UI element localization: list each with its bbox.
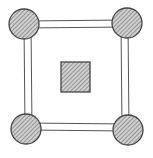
bar-right — [121, 23, 129, 130]
node-bottom-right — [113, 115, 143, 145]
node-top-left — [9, 9, 39, 39]
node-top-right — [112, 8, 142, 38]
center-block — [61, 62, 90, 92]
frame-diagram — [0, 0, 153, 158]
bar-left — [24, 24, 32, 129]
node-bottom-left — [11, 114, 41, 144]
